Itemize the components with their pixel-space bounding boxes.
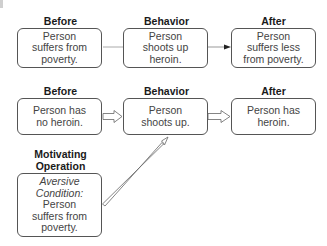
connectors <box>0 0 327 246</box>
hollow-arrow-before-behavior <box>103 111 122 123</box>
arrowhead-icon <box>224 45 231 50</box>
hollow-arrow-motivating-operation <box>103 137 169 206</box>
hollow-arrow-behavior-after <box>208 111 230 123</box>
left-edge-mark <box>0 0 3 8</box>
